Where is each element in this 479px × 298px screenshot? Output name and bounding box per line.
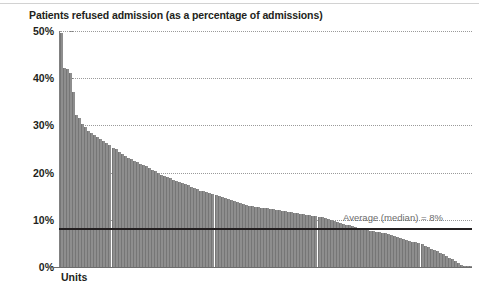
bar — [469, 266, 472, 267]
x-axis-label: Units — [61, 271, 87, 283]
bar-series — [60, 31, 472, 267]
y-tick-label-40: 40% — [20, 72, 54, 84]
chart-figure: Patients refused admission (as a percent… — [0, 0, 479, 298]
x-axis-line — [48, 267, 472, 268]
average-median-label: Average (median) = 8% — [343, 212, 443, 223]
y-axis-tick-labels: 50%40%30%20%10%0% — [14, 0, 54, 298]
y-tick-label-10: 10% — [20, 214, 54, 226]
plot-area — [60, 31, 472, 267]
chart-title: Patients refused admission (as a percent… — [29, 9, 323, 21]
y-tick-label-50: 50% — [20, 25, 54, 37]
average-median-line — [59, 228, 472, 230]
y-tick-label-30: 30% — [20, 119, 54, 131]
top-divider — [0, 3, 479, 4]
y-tick-label-20: 20% — [20, 167, 54, 179]
